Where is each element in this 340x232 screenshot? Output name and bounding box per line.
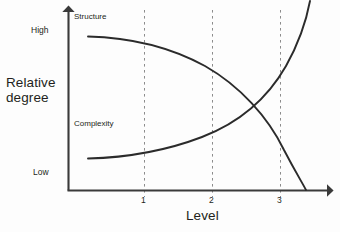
x-axis-label: Level xyxy=(186,208,219,223)
y-tick-label-low: Low xyxy=(33,168,49,178)
x-tick-label-3: 3 xyxy=(277,196,282,206)
chart-graphic xyxy=(0,0,340,232)
gridlines xyxy=(145,10,281,197)
x-tick-label-1: 1 xyxy=(141,196,146,206)
y-axis-label: Relative degree xyxy=(6,75,62,105)
y-axis-label-line-2: degree xyxy=(6,90,49,105)
x-tick-label-2: 2 xyxy=(209,196,214,206)
y-axis-label-line-1: Relative xyxy=(6,75,56,90)
series-curve-structure xyxy=(88,37,306,191)
series-label-structure: Structure xyxy=(74,13,106,22)
series-label-complexity: Complexity xyxy=(74,120,114,129)
y-tick-label-high: High xyxy=(31,26,48,36)
chart-container: Relative degree High Low Structure Compl… xyxy=(0,0,340,232)
